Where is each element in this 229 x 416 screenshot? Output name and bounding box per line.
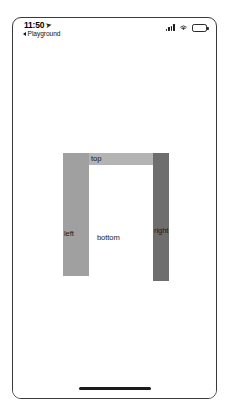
view-left: left xyxy=(63,153,89,276)
status-bar-time: 11:50➤ xyxy=(24,20,52,30)
view-bottom-label: bottom xyxy=(97,233,120,242)
status-bar-indicators xyxy=(166,24,207,32)
status-bar-time-text: 11:50 xyxy=(24,20,44,30)
view-top-label: top xyxy=(91,154,101,163)
location-arrow-icon: ➤ xyxy=(46,21,53,30)
view-bottom: bottom xyxy=(89,165,153,281)
status-bar: 11:50➤ Playground xyxy=(13,18,216,48)
home-indicator[interactable] xyxy=(79,387,151,390)
view-left-label: left xyxy=(64,229,74,238)
view-right: right xyxy=(153,153,169,281)
wifi-icon xyxy=(179,24,188,31)
phone-frame: 11:50➤ Playground top left right xyxy=(12,17,217,399)
layout-demo-canvas: top left right bottom xyxy=(13,48,216,398)
back-link-label: Playground xyxy=(28,30,61,37)
back-to-playground-link[interactable]: Playground xyxy=(23,30,60,37)
cellular-signal-icon xyxy=(166,24,175,31)
back-triangle-icon xyxy=(23,32,26,36)
view-right-label: right xyxy=(154,226,168,235)
battery-icon xyxy=(192,24,207,32)
